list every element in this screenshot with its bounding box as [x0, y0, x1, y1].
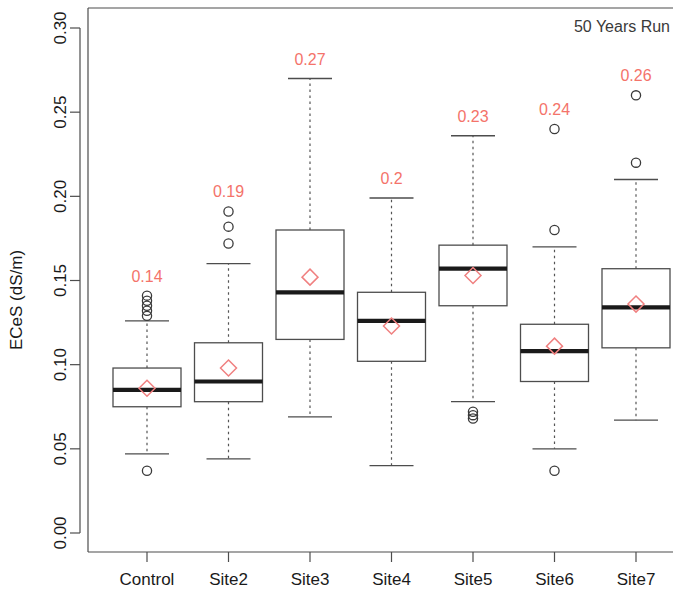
- max-value-label: 0.19: [213, 183, 244, 200]
- y-axis-tick-label: 0.05: [51, 432, 70, 465]
- mean-marker: [302, 269, 318, 285]
- outlier-point: [550, 124, 559, 133]
- outlier-point: [224, 207, 233, 216]
- boxplot-box: [276, 79, 344, 417]
- y-axis-tick-label: 0.30: [51, 11, 70, 44]
- y-axis-tick-label: 0.10: [51, 348, 70, 381]
- boxplot-box: [602, 91, 670, 420]
- outlier-point: [550, 225, 559, 234]
- boxplot-series: [113, 79, 670, 476]
- y-axis-tick-label: 0.15: [51, 264, 70, 297]
- y-axis: 0.000.050.100.150.200.250.30: [51, 11, 80, 549]
- plot-canvas: 0.000.050.100.150.200.250.30 ControlSite…: [0, 0, 678, 601]
- boxplot-box: [113, 291, 181, 475]
- boxplot-figure: 0.000.050.100.150.200.250.30 ControlSite…: [0, 0, 678, 601]
- x-axis-tick-label: Site4: [372, 570, 411, 589]
- x-axis-tick-label: Site3: [291, 570, 330, 589]
- max-value-label: 0.27: [294, 51, 325, 68]
- iqr-box: [113, 368, 181, 407]
- outlier-point: [631, 91, 640, 100]
- max-value-label: 0.14: [131, 268, 162, 285]
- run-annotation: 50 Years Run: [574, 18, 670, 35]
- x-axis-tick-label: Site7: [617, 570, 656, 589]
- x-axis-tick-label: Site6: [535, 570, 574, 589]
- plot-frame: [88, 8, 673, 552]
- outlier-point: [224, 239, 233, 248]
- plot-border: [88, 8, 673, 552]
- mean-marker: [221, 360, 237, 376]
- boxplot-box: [195, 207, 263, 459]
- x-axis-tick-label: Site2: [209, 570, 248, 589]
- y-axis-tick-label: 0.20: [51, 180, 70, 213]
- outlier-point: [631, 158, 640, 167]
- max-value-label: 0.26: [620, 67, 651, 84]
- mean-marker: [628, 296, 644, 312]
- boxplot-box: [521, 124, 589, 475]
- max-value-label: 0.24: [539, 101, 570, 118]
- y-axis-title: ECeS (dS/m): [7, 250, 26, 350]
- iqr-box: [358, 292, 426, 361]
- x-axis-tick-label: Site5: [454, 570, 493, 589]
- outlier-point: [142, 466, 151, 475]
- y-axis-tick-label: 0.25: [51, 96, 70, 129]
- iqr-box: [439, 245, 507, 306]
- max-value-label: 0.23: [457, 108, 488, 125]
- outlier-point: [550, 466, 559, 475]
- boxplot-box: [358, 198, 426, 466]
- outlier-point: [224, 222, 233, 231]
- boxplot-box: [439, 136, 507, 423]
- x-axis-tick-label: Control: [120, 570, 175, 589]
- x-axis: ControlSite2Site3Site4Site5Site6Site7: [88, 552, 673, 589]
- max-value-label: 0.2: [380, 170, 402, 187]
- y-axis-tick-label: 0.00: [51, 516, 70, 549]
- iqr-box: [195, 343, 263, 402]
